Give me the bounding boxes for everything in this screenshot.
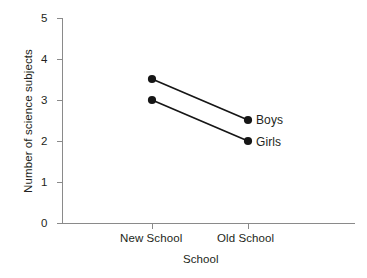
x-axis-title: School [183, 253, 219, 265]
y-tick-label-3: 3 [41, 94, 48, 106]
series-line-girls [152, 100, 248, 141]
series-label-girls: Girls [256, 135, 281, 149]
data-point-girls-old-school [244, 137, 252, 145]
y-tick-label-1: 1 [41, 176, 48, 188]
data-point-boys-new-school [148, 75, 156, 83]
y-tick-label-0: 0 [41, 217, 48, 229]
series-label-boys: Boys [256, 113, 283, 127]
x-tick-label-old-school: Old School [217, 232, 274, 244]
data-point-boys-old-school [244, 116, 252, 124]
plot-area: Number of science subjects [0, 0, 367, 278]
y-axis-title: Number of science subjects [22, 49, 34, 193]
series-line-boys [152, 79, 248, 120]
y-tick-label-5: 5 [41, 12, 48, 24]
data-point-girls-new-school [148, 96, 156, 104]
y-tick-label-4: 4 [41, 53, 48, 65]
y-tick-label-2: 2 [41, 135, 48, 147]
line-chart: Number of science subjects 5 4 3 2 1 0 N… [0, 0, 367, 278]
x-tick-label-new-school: New School [120, 232, 182, 244]
